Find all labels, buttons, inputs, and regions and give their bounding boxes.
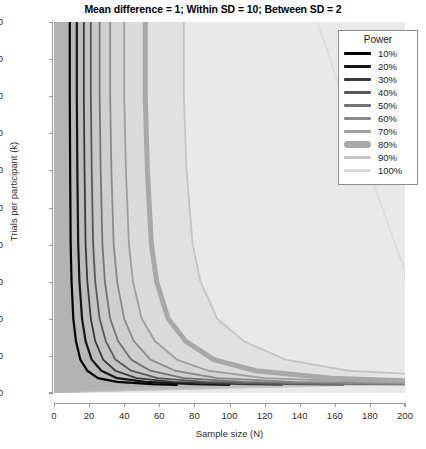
figure: Mean difference = 1; Within SD = 10; Bet… [0,0,426,449]
y-tick-label: 50 [0,202,3,213]
legend-item[interactable]: 10% [339,47,417,60]
y-axis: 0102030405060708090100 [46,22,53,393]
x-tick-label: 120 [245,410,285,421]
x-tick [194,403,195,407]
legend-swatch [344,130,371,133]
y-tick-label: 20 [0,313,3,324]
chart-title: Mean difference = 1; Within SD = 10; Bet… [0,3,426,15]
y-tick [49,319,53,320]
x-tick [159,403,160,407]
x-tick [335,403,336,407]
legend-label: 40% [378,87,397,98]
x-tick-label: 0 [34,410,74,421]
y-tick-label: 90 [0,53,3,64]
legend-item[interactable]: 80% [339,138,417,151]
x-tick [124,403,125,407]
y-tick [49,245,53,246]
y-tick-label: 30 [0,276,3,287]
x-tick [370,403,371,407]
x-tick-label: 200 [385,410,425,421]
x-axis-title: Sample size (N) [54,428,405,439]
legend-swatch [344,52,371,55]
y-tick [49,133,53,134]
legend-item[interactable]: 50% [339,99,417,112]
legend-label: 90% [378,152,397,163]
legend-swatch [344,104,371,107]
legend-item[interactable]: 30% [339,73,417,86]
x-tick [265,403,266,407]
y-tick [49,356,53,357]
y-tick [49,59,53,60]
x-tick-label: 180 [350,410,390,421]
x-tick-label: 160 [315,410,355,421]
x-tick-label: 40 [104,410,144,421]
legend-swatch [344,117,371,120]
legend-label: 30% [378,74,397,85]
y-tick-label: 60 [0,164,3,175]
x-tick [300,403,301,407]
y-tick-label: 70 [0,127,3,138]
legend-label: 100% [378,165,402,176]
legend-label: 50% [378,100,397,111]
legend-item[interactable]: 90% [339,151,417,164]
y-tick [49,22,53,23]
y-tick [49,170,53,171]
legend-item[interactable]: 60% [339,112,417,125]
y-tick [49,282,53,283]
x-axis: 020406080100120140160180200 [54,403,405,410]
legend-label: 70% [378,126,397,137]
legend-rows: 10%20%30%40%50%60%70%80%90%100% [339,47,417,177]
x-tick [230,403,231,407]
legend-title: Power [339,34,417,45]
y-tick [49,208,53,209]
legend-label: 20% [378,61,397,72]
legend-swatch [344,156,371,159]
y-tick-label: 40 [0,239,3,250]
legend-swatch [344,78,371,81]
y-tick [49,393,53,394]
x-tick-label: 100 [210,410,250,421]
legend-swatch [344,65,371,68]
legend-label: 10% [378,48,397,59]
x-tick [89,403,90,407]
y-tick-label: 0 [0,387,3,398]
x-tick-label: 60 [139,410,179,421]
y-tick-label: 80 [0,90,3,101]
y-tick-label: 10 [0,350,3,361]
legend-item[interactable]: 100% [339,164,417,177]
x-tick [54,403,55,407]
legend-swatch [344,141,371,148]
legend-item[interactable]: 20% [339,60,417,73]
y-tick [49,96,53,97]
legend-swatch [344,169,371,172]
x-tick-label: 80 [174,410,214,421]
x-tick-label: 20 [69,410,109,421]
legend-item[interactable]: 40% [339,86,417,99]
y-axis-title: Trials per participant (k) [8,97,19,287]
legend-label: 60% [378,113,397,124]
legend-item[interactable]: 70% [339,125,417,138]
x-tick [405,403,406,407]
legend: Power 10%20%30%40%50%60%70%80%90%100% [338,30,418,185]
y-tick-label: 100 [0,16,3,27]
x-tick-label: 140 [280,410,320,421]
legend-swatch [344,91,371,94]
legend-label: 80% [378,139,397,150]
